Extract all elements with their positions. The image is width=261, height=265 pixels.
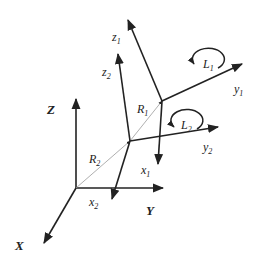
label-y2: y2 xyxy=(202,140,212,156)
label-l2: L2 xyxy=(180,118,192,134)
global-x-axis xyxy=(44,188,76,243)
label-global-y: Y xyxy=(146,203,155,218)
frame2-x-axis xyxy=(112,141,130,199)
diagram-canvas: Z Y X z1 y1 x1 z2 y2 x2 R1 R2 L1 L2 xyxy=(0,0,261,265)
label-r1: R1 xyxy=(136,102,148,118)
frame2-z-axis xyxy=(118,54,130,141)
label-y1: y1 xyxy=(233,82,243,98)
label-r2: R2 xyxy=(88,152,100,168)
label-z2: z2 xyxy=(101,65,111,81)
label-x2: x2 xyxy=(88,195,98,211)
label-z1: z1 xyxy=(111,30,121,46)
frame1-y-axis xyxy=(162,64,242,101)
label-l1: L1 xyxy=(202,57,214,73)
label-global-z: Z xyxy=(46,102,55,117)
label-x1: x1 xyxy=(140,163,150,179)
coordinate-frames-diagram: Z Y X z1 y1 x1 z2 y2 x2 R1 R2 L1 L2 xyxy=(0,0,261,265)
label-global-x: X xyxy=(14,238,24,253)
frame1-z-axis xyxy=(128,20,162,101)
vector-r1 xyxy=(130,101,162,141)
frame2-y-axis xyxy=(130,127,218,141)
frame1-x-axis xyxy=(158,101,162,164)
